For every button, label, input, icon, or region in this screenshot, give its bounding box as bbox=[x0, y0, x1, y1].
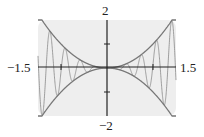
x-min-label: −1.5 bbox=[7, 61, 31, 74]
x-max-label: 1.5 bbox=[180, 61, 196, 74]
chart bbox=[0, 0, 204, 137]
y-max-label: 2 bbox=[102, 4, 109, 17]
y-min-label: −2 bbox=[99, 119, 113, 132]
